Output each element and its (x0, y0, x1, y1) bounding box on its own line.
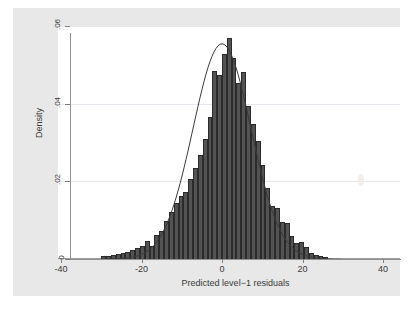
y-axis-tick (65, 259, 70, 260)
x-axis-tick (222, 259, 223, 263)
figure-canvas: 0.02.04.06 -40-2002040 Density Predicted… (13, 8, 400, 296)
y-axis-tick-label: 0 (13, 253, 63, 262)
y-axis-title: Density (34, 83, 44, 163)
paper-smudge (358, 174, 364, 186)
x-axis-tick (383, 259, 384, 263)
y-axis-line (70, 33, 71, 260)
x-axis-tick (142, 259, 143, 263)
x-axis-tick-label: -20 (122, 264, 162, 274)
y-axis-tick (65, 104, 70, 105)
gridline-0.06 (58, 26, 400, 27)
y-axis-tick (65, 181, 70, 182)
x-axis-tick-label: 40 (363, 264, 403, 274)
x-axis-tick-label: -40 (41, 264, 81, 274)
y-axis-tick (65, 26, 70, 27)
x-axis-title: Predicted level−1 residuals (70, 278, 401, 288)
x-axis-tick (61, 259, 62, 263)
x-axis-tick (303, 259, 304, 263)
y-axis-tick-label: .06 (13, 20, 63, 29)
x-axis-line (70, 259, 401, 260)
y-axis-tick-label: .02 (13, 175, 63, 184)
x-axis-tick-label: 0 (202, 264, 242, 274)
plot-area (58, 26, 400, 259)
x-axis-tick-label: 20 (283, 264, 323, 274)
